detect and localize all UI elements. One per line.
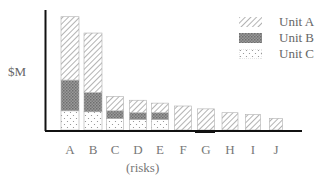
x-tick-label: E [152, 142, 168, 158]
legend-item-unit-c: Unit C [239, 46, 314, 62]
x-axis-label-text: (risks) [126, 160, 159, 176]
x-tick-label: H [222, 142, 238, 158]
bar-h-unit-a [222, 113, 238, 130]
crosshatch-swatch-icon [239, 33, 262, 43]
bar-c-unit-b [107, 111, 124, 119]
bar-a-unit-c [61, 111, 79, 130]
diagonal-hatch-swatch-icon [239, 17, 262, 27]
legend-item-unit-a: Unit A [239, 14, 314, 30]
bar-a-unit-a [61, 17, 79, 80]
bar-i-unit-a [246, 115, 261, 130]
bar-e-unit-a [152, 103, 169, 113]
bar-b-unit-c [84, 112, 102, 130]
legend-item-unit-b: Unit B [239, 30, 314, 46]
bar-e-unit-b [152, 113, 169, 120]
legend-label: Unit A [279, 14, 314, 30]
dotted-swatch-icon [239, 49, 262, 59]
bar-f-unit-a [175, 106, 192, 130]
x-tick-label: A [62, 142, 78, 158]
x-tick-label: D [130, 142, 146, 158]
x-tick-label: I [245, 142, 261, 158]
bar-j-unit-a [270, 118, 283, 130]
x-tick-label: B [85, 142, 101, 158]
bar-a-unit-b [61, 80, 79, 111]
bar-g-unit-a [198, 109, 215, 130]
bar-b-unit-b [84, 93, 102, 112]
bar-c-unit-a [107, 96, 124, 110]
legend-label: Unit B [279, 30, 314, 46]
bar-c-unit-c [107, 118, 124, 130]
y-axis-label: $M [8, 64, 26, 80]
x-tick-label: F [175, 142, 191, 158]
bar-d-unit-a [130, 100, 147, 112]
bar-d-unit-b [130, 113, 147, 120]
bar-d-unit-c [130, 119, 147, 130]
x-tick-label: C [107, 142, 123, 158]
x-tick-label: J [268, 142, 284, 158]
legend: Unit A Unit B Unit C [239, 14, 314, 62]
legend-label: Unit C [279, 46, 314, 62]
bar-e-unit-c [152, 119, 169, 130]
x-tick-label: G [198, 142, 214, 158]
bar-b-unit-a [84, 33, 102, 93]
